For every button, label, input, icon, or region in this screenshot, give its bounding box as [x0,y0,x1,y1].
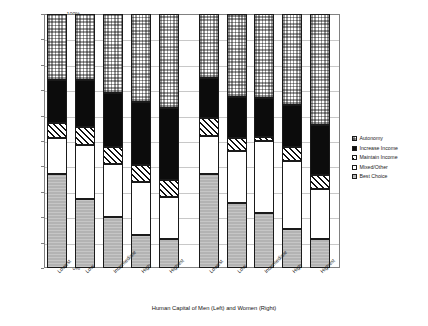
segment-autonomy[interactable] [227,14,247,97]
legend-swatch-icon [352,136,357,141]
segment-autonomy[interactable] [254,14,274,98]
segment-autonomy[interactable] [131,14,151,102]
segment-maintain-income[interactable] [227,138,247,151]
segment-increase-income[interactable] [75,80,95,127]
bar-women-highest[interactable] [310,14,330,268]
bar-men-highest[interactable] [159,14,179,268]
segment-autonomy[interactable] [47,14,67,80]
bar-women-intermediate[interactable] [254,14,274,268]
bar-men-intermediate[interactable] [103,14,123,268]
segment-maintain-income[interactable] [254,137,274,141]
legend-item-best-choice[interactable]: Best Choice [352,174,426,179]
legend-label: Maintain Income [360,155,398,160]
segment-increase-income[interactable] [103,93,123,148]
segment-increase-income[interactable] [131,102,151,166]
legend-label: Mixed/Other [360,165,388,170]
legend-swatch-icon [352,174,357,179]
bar-women-low[interactable] [227,14,247,268]
segment-increase-income[interactable] [282,105,302,147]
segment-mixed-other[interactable] [254,141,274,213]
segment-mixed-other[interactable] [159,197,179,239]
segment-best-choice[interactable] [47,174,67,268]
segment-increase-income[interactable] [159,108,179,180]
segment-mixed-other[interactable] [131,182,151,235]
legend-label: Increase Income [360,146,398,151]
segment-mixed-other[interactable] [75,145,95,200]
segment-autonomy[interactable] [75,14,95,80]
bars-layer [44,14,340,268]
legend-item-maintain-income[interactable]: Maintain Income [352,155,426,160]
segment-autonomy[interactable] [103,14,123,93]
segment-mixed-other[interactable] [227,151,247,203]
segment-maintain-income[interactable] [310,175,330,189]
legend-item-autonomy[interactable]: Autonomy [352,136,426,141]
legend-label: Autonomy [360,136,383,141]
bar-men-lowest[interactable] [47,14,67,268]
segment-autonomy[interactable] [199,14,219,78]
segment-autonomy[interactable] [310,14,330,124]
legend-swatch-icon [352,165,357,170]
segment-increase-income[interactable] [227,97,247,139]
bar-women-high[interactable] [282,14,302,268]
bar-women-lowest[interactable] [199,14,219,268]
segment-best-choice[interactable] [75,199,95,268]
x-axis-ticks: LowestLowIntermediateHighHighestLowestLo… [44,270,340,310]
segment-maintain-income[interactable] [199,118,219,136]
y-tick-mark [41,268,44,269]
segment-mixed-other[interactable] [47,138,67,174]
stacked-bar-chart: Proportion All Business Creation 0%10%20… [0,0,428,326]
segment-mixed-other[interactable] [310,189,330,239]
segment-mixed-other[interactable] [103,164,123,217]
segment-maintain-income[interactable] [103,147,123,164]
segment-autonomy[interactable] [159,14,179,108]
segment-maintain-income[interactable] [75,127,95,145]
segment-autonomy[interactable] [282,14,302,105]
legend-swatch-icon [352,155,357,160]
segment-increase-income[interactable] [47,80,67,123]
segment-mixed-other[interactable] [199,136,219,174]
bar-men-low[interactable] [75,14,95,268]
segment-mixed-other[interactable] [282,161,302,228]
segment-best-choice[interactable] [199,174,219,268]
segment-maintain-income[interactable] [131,165,151,182]
segment-increase-income[interactable] [310,125,330,176]
segment-maintain-income[interactable] [47,123,67,138]
segment-increase-income[interactable] [199,78,219,119]
legend: AutonomyIncrease IncomeMaintain IncomeMi… [352,136,426,184]
segment-maintain-income[interactable] [159,180,179,197]
segment-best-choice[interactable] [227,203,247,268]
legend-label: Best Choice [360,174,388,179]
x-axis-title: Human Capital of Men (Left) and Women (R… [0,305,428,311]
legend-swatch-icon [352,146,357,151]
segment-increase-income[interactable] [254,98,274,137]
legend-item-mixed-other[interactable]: Mixed/Other [352,165,426,170]
legend-item-increase-income[interactable]: Increase Income [352,146,426,151]
bar-men-high[interactable] [131,14,151,268]
segment-maintain-income[interactable] [282,147,302,161]
